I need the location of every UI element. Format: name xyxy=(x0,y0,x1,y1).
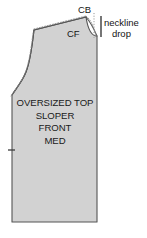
label-neckline-drop: neckline drop xyxy=(104,17,139,39)
neckline-drop-line-1: neckline xyxy=(104,17,139,28)
piece-label-line-1: OVERSIZED TOP xyxy=(12,97,98,110)
piece-label-line-2: SLOPER xyxy=(12,110,98,123)
label-center-back: CB xyxy=(78,5,91,15)
piece-label-line-4: MED xyxy=(12,135,98,148)
piece-label-line-3: FRONT xyxy=(12,122,98,135)
neckline-drop-line-2: drop xyxy=(104,28,139,39)
label-center-front: CF xyxy=(67,29,80,39)
pattern-piece-label-block: OVERSIZED TOP SLOPER FRONT MED xyxy=(12,97,98,148)
